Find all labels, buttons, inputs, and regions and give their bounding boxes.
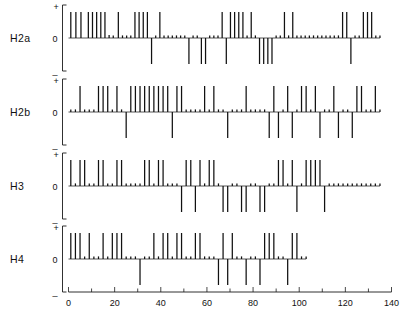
- y-axis-plus-label: +: [54, 150, 59, 160]
- trace-h3: +0_H3: [10, 150, 380, 224]
- row-label-h2b: H2b: [10, 106, 30, 118]
- y-axis-zero-label: 0: [53, 255, 58, 265]
- y-axis-bracket: [63, 5, 67, 71]
- trace-h2b: +0_H2b: [10, 76, 380, 150]
- x-axis-tick-label: 0: [66, 298, 71, 308]
- y-axis-minus-label: _: [52, 66, 59, 76]
- x-axis-tick-label: 100: [292, 298, 307, 308]
- x-axis-tick-label: 120: [338, 298, 353, 308]
- x-axis-tick-label: 20: [110, 298, 120, 308]
- y-axis-plus-label: +: [54, 76, 59, 86]
- y-axis-minus-label: _: [52, 140, 59, 150]
- trace-h2a: +0_H2a: [10, 2, 380, 76]
- x-axis-tick-label: 40: [156, 298, 166, 308]
- y-axis-bracket: [63, 226, 67, 292]
- y-axis-bracket: [63, 153, 67, 219]
- y-axis-plus-label: +: [54, 2, 59, 12]
- y-axis-zero-label: 0: [53, 182, 58, 192]
- x-axis: 020406080100120140: [66, 287, 399, 308]
- y-axis-minus-label: _: [52, 287, 59, 297]
- y-axis-plus-label: +: [54, 223, 59, 233]
- spike-train-figure: +0_H2a+0_H2b+0_H3+0_H4 02040608010012014…: [0, 0, 413, 318]
- y-axis-bracket: [63, 79, 67, 145]
- traces-group: +0_H2a+0_H2b+0_H3+0_H4: [10, 2, 380, 297]
- spike-train-plot: +0_H2a+0_H2b+0_H3+0_H4 02040608010012014…: [0, 0, 413, 318]
- x-axis-tick-label: 140: [384, 298, 399, 308]
- trace-h4: +0_H4: [10, 223, 306, 297]
- row-label-h3: H3: [10, 180, 24, 192]
- x-axis-tick-label: 60: [202, 298, 212, 308]
- row-label-h4: H4: [10, 253, 24, 265]
- row-label-h2a: H2a: [10, 32, 30, 44]
- x-axis-tick-label: 80: [248, 298, 258, 308]
- y-axis-zero-label: 0: [53, 108, 58, 118]
- y-axis-zero-label: 0: [53, 34, 58, 44]
